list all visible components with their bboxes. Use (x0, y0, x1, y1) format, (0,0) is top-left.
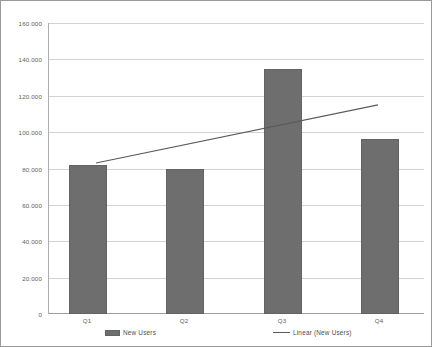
y-tick-100000: 100.000 (0, 129, 42, 136)
bar-q1[interactable] (69, 165, 107, 314)
y-tick-160000: 160.000 (0, 20, 42, 27)
gridline-100000 (49, 132, 424, 133)
x-tick-q1: Q1 (57, 317, 117, 324)
legend-label-new-users: New Users (123, 329, 156, 336)
x-tick-q2: Q2 (154, 317, 214, 324)
gridline-120000 (49, 96, 424, 97)
bar-q2[interactable] (166, 169, 204, 315)
gridline-140000 (49, 59, 424, 60)
legend-item-new-users[interactable]: New Users (105, 329, 156, 336)
legend-swatch-line-icon (273, 332, 290, 333)
legend-swatch-bar-icon (105, 330, 120, 336)
x-tick-q4: Q4 (349, 317, 409, 324)
y-tick-80000: 80.000 (0, 165, 42, 172)
legend-item-linear-new-users[interactable]: Linear (New Users) (273, 329, 352, 336)
y-tick-40000: 40.000 (0, 238, 42, 245)
legend-label-linear-new-users: Linear (New Users) (293, 329, 352, 336)
gridline-160000 (49, 23, 424, 24)
legend: New Users Linear (New Users) (1, 329, 432, 343)
bar-q3[interactable] (264, 69, 302, 314)
y-tick-60000: 60.000 (0, 201, 42, 208)
y-tick-120000: 120.000 (0, 92, 42, 99)
y-tick-0: 0 (0, 311, 42, 318)
y-tick-140000: 140.000 (0, 56, 42, 63)
chart-frame: 160.000 140.000 120.000 100.000 80.000 6… (0, 0, 432, 347)
y-tick-20000: 20.000 (0, 274, 42, 281)
plot-area (48, 23, 424, 314)
x-tick-q3: Q3 (252, 317, 312, 324)
bar-q4[interactable] (361, 139, 399, 314)
